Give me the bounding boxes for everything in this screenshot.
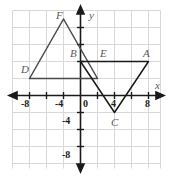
y-axis-label: y	[89, 10, 94, 21]
tick-label-y-neg8: -8	[62, 150, 70, 160]
tick-label-x-8: 8	[145, 99, 150, 109]
coordinate-plane-svg	[0, 0, 173, 178]
vertex-label-e: E	[100, 48, 107, 59]
tick-label-y-neg4: -4	[62, 116, 70, 126]
tick-label-x-neg4: -4	[55, 99, 63, 109]
vertex-label-c: C	[111, 117, 118, 128]
grid-lines	[13, 11, 161, 169]
vertex-label-b: B	[70, 48, 77, 59]
vertex-label-f: F	[56, 10, 63, 21]
figure-root: y x -8 -4 0 4 8 -4 -8 F D B E A C	[0, 0, 173, 178]
vertex-label-a: A	[143, 48, 150, 59]
tick-label-origin: 0	[83, 99, 88, 109]
tick-label-x-neg8: -8	[21, 99, 29, 109]
tick-label-x-4: 4	[111, 99, 116, 109]
vertex-label-d: D	[21, 64, 29, 75]
x-axis-label: x	[155, 80, 160, 91]
